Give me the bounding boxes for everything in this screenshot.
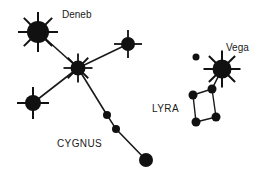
star-disc: [189, 91, 198, 100]
star-disc: [208, 85, 217, 94]
constellation-line: [33, 68, 78, 103]
star-disc: [192, 118, 201, 127]
star-chi: [112, 125, 120, 133]
star-sadr: [64, 54, 93, 83]
labels-layer: Deneb Vega CYGNUS LYRA: [57, 9, 249, 149]
star-delta: [114, 30, 142, 58]
constellation-line: [78, 68, 107, 115]
star-delta2: [189, 91, 198, 100]
star-beta: [192, 118, 201, 127]
star-gienah: [17, 87, 49, 119]
star-disc: [121, 37, 135, 51]
star-disc: [213, 60, 232, 79]
star-disc: [103, 111, 111, 119]
constellation-diagram: Deneb Vega CYGNUS LYRA: [0, 0, 269, 179]
star-epsilon: [193, 54, 200, 61]
star-zeta: [208, 85, 217, 94]
star-disc: [112, 125, 120, 133]
star-disc: [212, 113, 221, 122]
star-disc: [25, 95, 41, 111]
star-vega: [204, 51, 241, 88]
star-disc: [27, 21, 49, 43]
star-deneb: [18, 12, 58, 52]
star-gamma: [212, 113, 221, 122]
star-label-vega: Vega: [226, 42, 249, 53]
star-disc: [193, 54, 200, 61]
star-disc: [139, 153, 153, 167]
constellation-line: [78, 44, 128, 68]
constellation-label-lyra: LYRA: [152, 103, 179, 114]
star-albireo: [139, 153, 153, 167]
star-eta: [103, 111, 111, 119]
constellation-label-cygnus: CYGNUS: [57, 138, 102, 149]
sky-canvas: Deneb Vega CYGNUS LYRA: [0, 0, 269, 179]
star-disc: [71, 61, 86, 76]
star-label-deneb: Deneb: [62, 9, 92, 20]
